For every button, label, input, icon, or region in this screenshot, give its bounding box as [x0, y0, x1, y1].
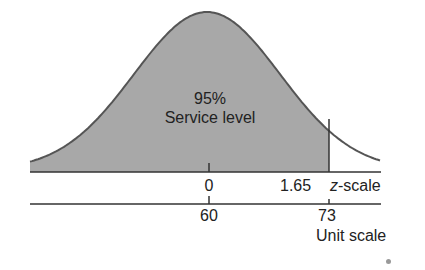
- decorative-dot: [386, 259, 391, 264]
- z-tick-label-1-65: 1.65: [280, 178, 311, 194]
- unit-tick-label-60: 60: [189, 208, 229, 224]
- z-scale-italic: z: [330, 177, 338, 194]
- unit-tick-label-73: 73: [318, 208, 336, 224]
- z-scale-label: z-scale: [330, 178, 381, 194]
- z-tick-label-0: 0: [194, 178, 224, 194]
- unit-scale-label: Unit scale: [316, 228, 386, 244]
- z-scale-rest: -scale: [338, 177, 381, 194]
- service-level-label: Service level: [140, 110, 280, 126]
- service-level-percent: 95%: [160, 91, 260, 107]
